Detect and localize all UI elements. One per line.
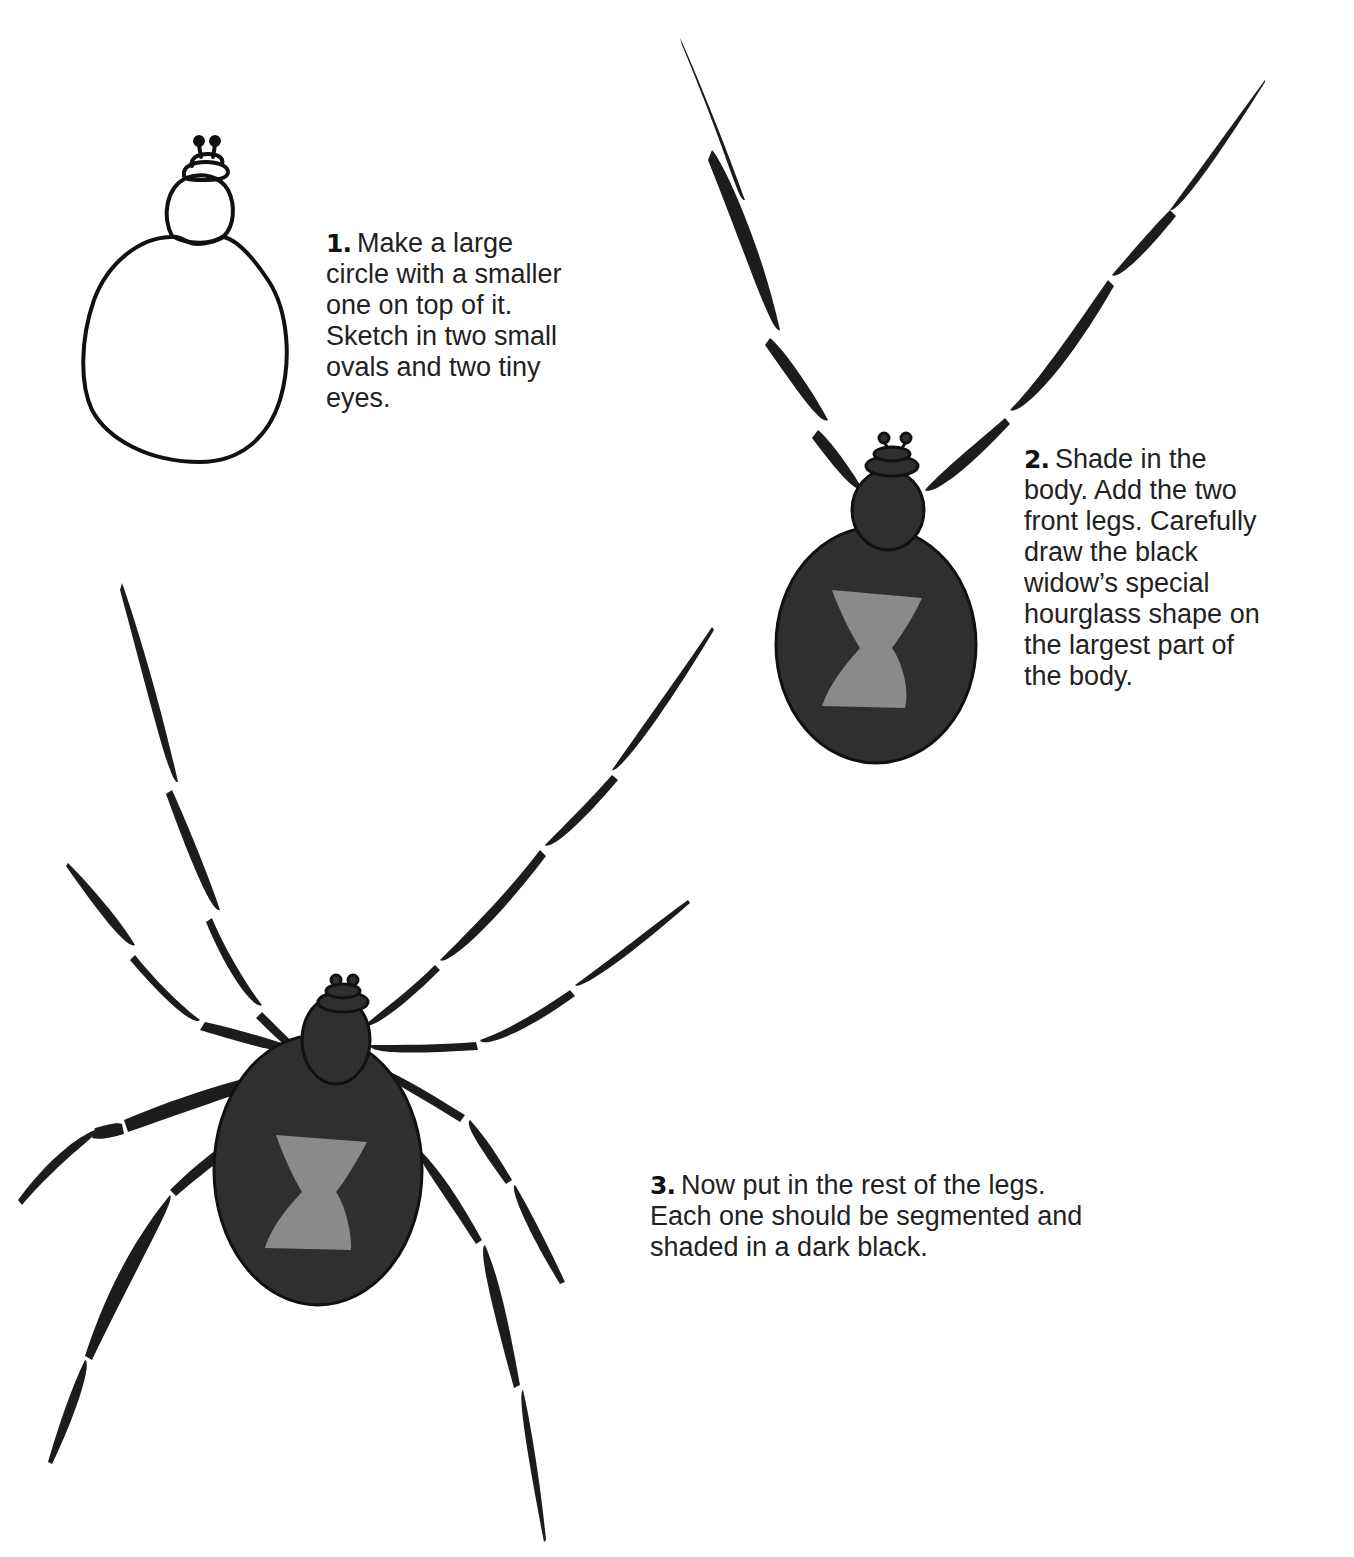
step-3-line: shaded in a dark black. xyxy=(650,1232,1210,1263)
step-2-line: body. Add the two xyxy=(1024,475,1344,506)
step-2-line: the largest part of xyxy=(1024,630,1344,661)
step-2-line: front legs. Carefully xyxy=(1024,506,1344,537)
step-3-line: Each one should be segmented and xyxy=(650,1201,1210,1232)
step-2-instructions: 2.Shade in the body. Add the two front l… xyxy=(1024,444,1344,692)
step-2-line: Shade in the xyxy=(1055,444,1207,474)
step-1-line: Sketch in two small xyxy=(326,321,626,352)
step-3-instructions: 3.Now put in the rest of the legs. Each … xyxy=(650,1170,1210,1263)
step-1-line: Make a large xyxy=(357,228,513,258)
step3-spider-icon xyxy=(18,583,714,1542)
step-2-number: 2. xyxy=(1024,445,1049,474)
illustration-canvas xyxy=(0,0,1354,1557)
step-3-number: 3. xyxy=(650,1171,675,1200)
step-3-line: Now put in the rest of the legs. xyxy=(681,1170,1046,1200)
step-1-line: eyes. xyxy=(326,383,626,414)
step-1-line: circle with a smaller xyxy=(326,259,626,290)
step-2-line: hourglass shape on xyxy=(1024,599,1344,630)
step-1-line: ovals and two tiny xyxy=(326,352,626,383)
step-2-line: widow’s special xyxy=(1024,568,1344,599)
step-1-line: one on top of it. xyxy=(326,290,626,321)
step-2-line: draw the black xyxy=(1024,537,1344,568)
step1-sketch-icon xyxy=(83,137,287,462)
step-1-instructions: 1.Make a large circle with a smaller one… xyxy=(326,228,626,414)
step-1-number: 1. xyxy=(326,229,351,258)
step-2-line: the body. xyxy=(1024,661,1344,692)
